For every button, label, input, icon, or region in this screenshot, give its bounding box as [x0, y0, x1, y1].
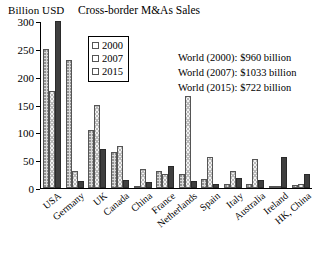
- y-tick-mark: [36, 133, 40, 134]
- bar-groups: [41, 22, 312, 188]
- legend-label: 2000: [102, 40, 123, 51]
- bar-group: [267, 22, 290, 188]
- bar: [123, 180, 129, 188]
- y-tick-label: 150: [18, 100, 35, 112]
- annotation-block: World (2000): $960 billionWorld (2007): …: [178, 50, 296, 95]
- bar: [191, 181, 197, 188]
- bar-group: [176, 22, 199, 188]
- y-axis-label: Billion USD: [8, 4, 64, 16]
- bar: [258, 180, 264, 188]
- bar-group: [289, 22, 312, 188]
- legend-label: 2015: [102, 66, 123, 77]
- bar: [168, 166, 174, 188]
- bar: [185, 96, 191, 188]
- y-tick-label: 50: [23, 155, 34, 167]
- y-tick-mark: [36, 78, 40, 79]
- bar: [66, 60, 72, 188]
- x-axis-line: [40, 188, 312, 189]
- chart-title: Cross-border M&As Sales: [78, 4, 200, 16]
- y-tick-label: 100: [18, 127, 35, 139]
- bar: [213, 184, 219, 188]
- legend-swatch-icon: [92, 68, 99, 75]
- x-axis-labels: USAGermanyUKCanadaChinaFranceNetherlands…: [41, 190, 313, 250]
- chart-container: Billion USD Cross-border M&As Sales 0501…: [0, 0, 320, 254]
- x-axis-tick-label: Spain: [198, 190, 223, 213]
- legend-item[interactable]: 2007: [92, 52, 123, 65]
- bar-group: [154, 22, 177, 188]
- bar-group: [244, 22, 267, 188]
- annotation-line: World (2000): $960 billion: [178, 50, 296, 65]
- legend-item[interactable]: 2015: [92, 65, 123, 78]
- bar: [55, 21, 61, 188]
- bar: [146, 182, 152, 188]
- bar: [236, 178, 242, 188]
- y-tick-mark: [36, 161, 40, 162]
- y-tick-mark: [36, 106, 40, 107]
- bar-group: [41, 22, 64, 188]
- y-tick-label: 200: [18, 72, 35, 84]
- y-tick-label: 250: [18, 44, 35, 56]
- y-tick-mark: [36, 50, 40, 51]
- legend-item[interactable]: 2000: [92, 39, 123, 52]
- legend-label: 2007: [102, 53, 123, 64]
- bar-group: [131, 22, 154, 188]
- bar-group: [199, 22, 222, 188]
- bar: [78, 181, 84, 188]
- y-tick-label: 0: [29, 183, 35, 195]
- bar-group: [64, 22, 87, 188]
- plot-area: 050100150200250300: [40, 22, 312, 189]
- bar: [304, 174, 310, 188]
- y-tick-mark: [36, 22, 40, 23]
- bar: [281, 157, 287, 188]
- legend-swatch-icon: [92, 55, 99, 62]
- y-tick-label: 300: [18, 16, 35, 28]
- bar: [100, 149, 106, 188]
- bar-group: [222, 22, 245, 188]
- annotation-line: World (2007): $1033 billion: [178, 65, 296, 80]
- annotation-line: World (2015): $722 billion: [178, 80, 296, 95]
- legend: 200020072015: [88, 36, 129, 82]
- x-axis-tick-label: China: [129, 190, 154, 214]
- legend-swatch-icon: [92, 42, 99, 49]
- y-tick-mark: [36, 189, 40, 190]
